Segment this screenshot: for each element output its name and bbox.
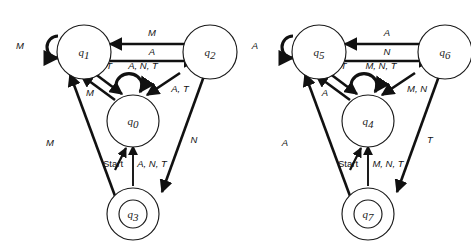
edge-label-r-q6-q7: T	[427, 134, 434, 145]
edge-label-r-q6-q4: M, N	[407, 83, 427, 94]
edge-label-l-q0-q1: M	[86, 87, 94, 98]
edge-label-r-q5-self: A	[251, 40, 258, 51]
edge-label-r-q5-q6: N	[384, 46, 391, 57]
edge-label-l-q2-q0: A, T	[170, 83, 190, 94]
edge-label-r-q4-q5: A	[321, 87, 328, 98]
edge-label-l-q3-q1: M	[46, 137, 54, 148]
edge-label-r-q4-self: M, N, T	[365, 60, 397, 71]
edge-label-l-q1-self: M	[16, 40, 24, 51]
edge-label-l-q2-q3: N	[191, 134, 198, 145]
edge-label-l-q1-q2: A	[148, 46, 155, 57]
edge-label-l-q0-self: A, N, T	[127, 60, 159, 71]
start-label-left: Start	[103, 158, 123, 169]
start-label-right: Start	[338, 158, 358, 169]
edge-label-r-q7-q5: A	[281, 137, 288, 148]
edge-label-r-q7-q4: M, N, T	[372, 158, 404, 169]
edge-label-r-q6-q5: A	[383, 27, 390, 38]
transition-l-q1-self	[47, 36, 58, 58]
edge-label-l-q3-q0: A, N, T	[136, 158, 168, 169]
transition-l-q0-self	[116, 74, 142, 92]
fsm-svg: M M A N, T M A, N, T A, T N M	[0, 0, 471, 249]
edge-label-l-q2-q1: M	[148, 27, 156, 38]
left-machine: M M A N, T M A, N, T A, T N M	[16, 25, 237, 240]
fsm-diagram-canvas: M M A N, T M A, N, T A, T N M	[0, 0, 471, 249]
transition-r-q4-self	[351, 74, 377, 92]
transition-r-q5-self	[282, 36, 293, 58]
right-machine: A A N M, T A M, N, T M, N T A	[251, 25, 471, 240]
